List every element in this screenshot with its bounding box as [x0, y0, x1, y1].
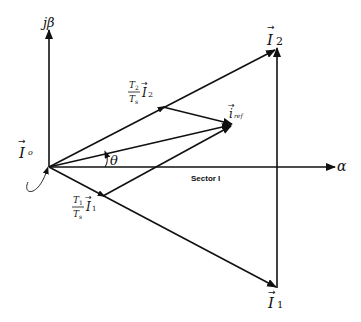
svg-text:1: 1	[277, 299, 283, 310]
svg-text:s: s	[79, 213, 82, 220]
svg-text:1: 1	[79, 199, 83, 206]
svg-text:Sector I: Sector I	[191, 174, 220, 183]
svg-text:jβ: jβ	[40, 15, 55, 30]
theta-label: θ	[110, 153, 118, 168]
alpha-axis-label: α	[337, 158, 347, 174]
svg-text:2: 2	[276, 35, 283, 48]
iref-label: → i ref	[228, 101, 244, 121]
svg-text:s: s	[135, 98, 138, 105]
svg-text:α: α	[337, 158, 347, 174]
svg-text:2: 2	[135, 84, 139, 91]
vector-iref	[49, 125, 231, 167]
svg-text:1: 1	[92, 205, 96, 213]
svm-diagram: jβ α → I 2 → I 1 → i ref → I o θ T 2 T s…	[0, 0, 361, 322]
t1-to-iref-line	[103, 126, 231, 196]
i1-label: → I 1	[267, 287, 283, 312]
svg-text:2: 2	[148, 90, 153, 99]
theta-arc	[105, 154, 107, 167]
svg-text:I: I	[141, 86, 147, 100]
svg-text:I: I	[85, 200, 91, 214]
t2-to-iref-line	[163, 107, 232, 124]
svg-text:I: I	[267, 294, 275, 312]
svg-text:i: i	[229, 107, 233, 121]
i0-label: → I o	[18, 136, 33, 162]
i0-pointer	[27, 170, 47, 192]
sector-label: Sector I	[191, 174, 220, 183]
vector-i2	[49, 50, 275, 167]
i2-label: → I 2	[266, 22, 283, 49]
svg-text:θ: θ	[110, 153, 118, 168]
t1-fraction-label: T 1 T s → I 1	[72, 193, 96, 220]
svg-text:I: I	[18, 144, 26, 162]
t2-fraction-label: T 2 T s → I 2	[128, 79, 153, 105]
svg-text:ref: ref	[234, 112, 244, 120]
svg-text:I: I	[266, 31, 274, 49]
vector-i1	[49, 167, 276, 287]
svg-text:o: o	[28, 148, 33, 157]
beta-axis-label: jβ	[40, 15, 55, 30]
